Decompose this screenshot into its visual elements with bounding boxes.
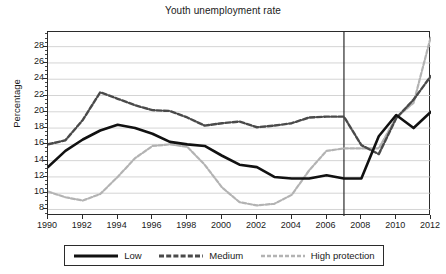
x-tick-mark xyxy=(395,215,396,219)
y-tick-label: 22 xyxy=(18,90,44,99)
series-line-medium xyxy=(48,76,431,154)
legend-item-low: Low xyxy=(73,250,141,261)
y-axis-ticks: 810121416182022242628 xyxy=(13,31,44,215)
legend-item-high-protection: High protection xyxy=(260,250,375,261)
y-tick-label: 26 xyxy=(18,57,44,66)
legend-label: Medium xyxy=(209,250,243,261)
x-tick-mark xyxy=(291,215,292,219)
y-tick-label: 8 xyxy=(18,203,44,212)
x-tick-mark xyxy=(256,215,257,219)
chart-legend: LowMediumHigh protection xyxy=(64,245,384,266)
x-tick-mark xyxy=(47,215,48,219)
legend-label: High protection xyxy=(311,250,375,261)
dotted-line-swatch xyxy=(260,251,306,261)
plot-area xyxy=(47,31,430,215)
y-tick-label: 10 xyxy=(18,187,44,196)
x-tick-mark xyxy=(360,215,361,219)
x-tick-mark xyxy=(430,215,431,219)
x-tick-mark xyxy=(117,215,118,219)
y-tick-label: 12 xyxy=(18,171,44,180)
y-tick-label: 16 xyxy=(18,138,44,147)
x-tick-mark xyxy=(221,215,222,219)
chart-figure: Youth unemployment rate Percentage 81012… xyxy=(0,0,446,274)
y-tick-label: 14 xyxy=(18,155,44,164)
solid-line-swatch xyxy=(73,251,119,261)
x-tick-mark xyxy=(326,215,327,219)
legend-item-medium: Medium xyxy=(158,250,243,261)
y-tick-label: 20 xyxy=(18,106,44,115)
y-tick-label: 24 xyxy=(18,73,44,82)
y-tick-label: 28 xyxy=(18,41,44,50)
x-tick-mark xyxy=(186,215,187,219)
x-axis-ticks: 1990199219941996199820002002200420062008… xyxy=(47,215,430,237)
x-tick-mark xyxy=(82,215,83,219)
y-tick-label: 18 xyxy=(18,122,44,131)
plot-svg xyxy=(48,32,431,216)
dashed-line-swatch xyxy=(158,251,204,261)
chart-title: Youth unemployment rate xyxy=(0,5,446,16)
x-tick-label: 2012 xyxy=(410,220,446,230)
legend-label: Low xyxy=(124,250,141,261)
x-tick-mark xyxy=(151,215,152,219)
